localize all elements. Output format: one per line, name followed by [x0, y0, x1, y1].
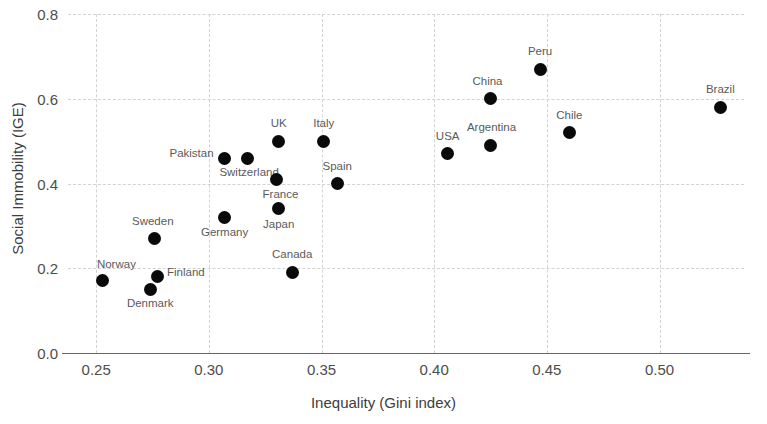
data-point-brazil[interactable]	[714, 101, 727, 114]
data-point-peru[interactable]	[534, 63, 547, 76]
data-point-france[interactable]	[270, 173, 283, 186]
y-axis-title: Social Immobility (IGE)	[9, 24, 26, 334]
data-point-label-pakistan: Pakistan	[169, 147, 213, 159]
data-point-label-norway: Norway	[97, 258, 136, 270]
data-point-label-canada: Canada	[272, 248, 312, 260]
data-point-canada[interactable]	[286, 266, 299, 279]
x-axis-tick-labels: 0.250.300.350.400.450.50	[0, 361, 767, 385]
data-point-label-brazil: Brazil	[706, 83, 735, 95]
gridline-x-0.45	[547, 14, 548, 353]
data-point-usa[interactable]	[441, 147, 454, 160]
x-tick-label: 0.30	[194, 361, 223, 378]
data-point-label-uk: UK	[271, 117, 287, 129]
scatter-chart: NorwayDenmarkSwedenFinlandGermanyPakista…	[0, 0, 767, 424]
data-point-germany[interactable]	[218, 211, 231, 224]
x-tick-label: 0.40	[420, 361, 449, 378]
data-point-pakistan[interactable]	[218, 152, 231, 165]
data-point-label-sweden: Sweden	[132, 215, 174, 227]
data-point-label-germany: Germany	[201, 226, 248, 238]
data-point-japan[interactable]	[272, 202, 285, 215]
x-axis-title: Inequality (Gini index)	[0, 394, 767, 411]
data-point-label-china: China	[472, 75, 502, 87]
data-point-label-france: France	[263, 188, 299, 200]
data-point-label-finland: Finland	[167, 266, 205, 278]
gridline-x-0.30	[209, 14, 210, 353]
data-point-label-denmark: Denmark	[127, 297, 174, 309]
gridline-y-0.8	[68, 14, 744, 15]
data-point-denmark[interactable]	[144, 283, 157, 296]
data-point-switzerland[interactable]	[241, 152, 254, 165]
data-point-label-peru: Peru	[528, 45, 552, 57]
x-tick-label: 0.35	[307, 361, 336, 378]
data-point-finland[interactable]	[151, 270, 164, 283]
data-point-label-chile: Chile	[556, 109, 582, 121]
gridline-x-0.40	[434, 14, 435, 353]
data-point-label-usa: USA	[436, 130, 460, 142]
x-tick-label: 0.50	[645, 361, 674, 378]
gridline-y-0.6	[68, 99, 744, 100]
data-point-sweden[interactable]	[148, 232, 161, 245]
y-tick-label: 0.8	[12, 6, 58, 23]
x-tick-label: 0.45	[532, 361, 561, 378]
data-point-norway[interactable]	[96, 274, 109, 287]
data-point-chile[interactable]	[563, 126, 576, 139]
plot-area: NorwayDenmarkSwedenFinlandGermanyPakista…	[68, 14, 744, 353]
x-axis-spine	[62, 353, 750, 354]
data-point-label-spain: Spain	[323, 160, 352, 172]
data-point-uk[interactable]	[272, 135, 285, 148]
data-point-label-italy: Italy	[313, 117, 334, 129]
data-point-argentina[interactable]	[484, 139, 497, 152]
y-tick-label: 0.0	[12, 345, 58, 362]
data-point-label-argentina: Argentina	[467, 121, 516, 133]
data-point-italy[interactable]	[317, 135, 330, 148]
data-point-label-japan: Japan	[263, 218, 294, 230]
gridline-x-0.50	[660, 14, 661, 353]
data-point-china[interactable]	[484, 92, 497, 105]
x-tick-label: 0.25	[82, 361, 111, 378]
gridline-x-0.25	[96, 14, 97, 353]
data-point-spain[interactable]	[331, 177, 344, 190]
gridline-y-0.4	[68, 184, 744, 185]
gridline-x-0.35	[322, 14, 323, 353]
